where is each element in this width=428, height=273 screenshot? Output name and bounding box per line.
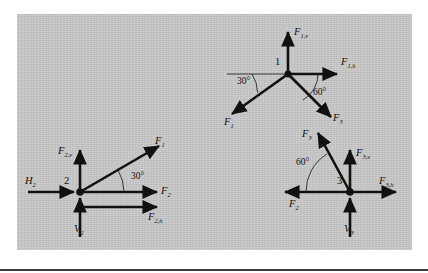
node-3-vector-F3 [318, 133, 350, 192]
node-3-label-F3v: F3,v [356, 148, 370, 161]
force-diagram-figure: F1,v 1 F1,h F1 F3 30° 60° H2 2 F2,v F2 F… [0, 0, 428, 273]
node-3-angle-label-60: 60° [296, 158, 309, 168]
node-2-angle-arc-30 [118, 170, 124, 192]
node-1-angle-label-60: 60° [313, 88, 326, 98]
node-1-label-F1h: F1,h [341, 57, 356, 70]
node-1-label-F1: F1 [224, 117, 234, 130]
node-2-number: 2 [64, 176, 69, 187]
node-3-label-F2: F2 [289, 199, 299, 212]
node-1-label-F1v: F1,v [294, 27, 308, 40]
node-2-group [28, 146, 159, 237]
node-2-joint-dot [76, 188, 84, 196]
node-2-label-F2h: F2,h [148, 212, 163, 225]
node-2-angle-label-30: 30° [131, 172, 144, 182]
node-3-label-V3: V3 [344, 224, 354, 237]
node-1-number: 1 [275, 57, 280, 68]
node-3-number: 3 [337, 176, 342, 187]
node-2-vector-F1 [80, 146, 159, 192]
node-2-label-F2v: F2,v [58, 146, 72, 159]
bottom-divider-rule [0, 269, 428, 271]
node-1-label-F3: F3 [333, 113, 343, 126]
node-1-joint-dot [285, 71, 292, 78]
node-2-label-F2: F2 [161, 186, 171, 199]
node-3-label-F3h: F3,h [379, 176, 394, 189]
node-3-label-F3: F3 [302, 129, 312, 142]
node-2-label-H2: H2 [25, 176, 36, 189]
node-1-angle-label-30: 30° [237, 77, 250, 87]
node-1-group [227, 32, 337, 117]
vector-graphics-layer [0, 0, 428, 273]
node-3-joint-dot [346, 188, 354, 196]
node-1-angle-arc-30 [252, 74, 258, 93]
node-2-label-F1: F1 [155, 136, 165, 149]
node-2-label-V2: V2 [74, 224, 84, 237]
